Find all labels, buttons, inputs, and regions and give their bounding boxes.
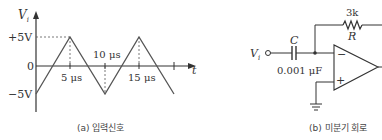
input-terminal-icon xyxy=(266,51,271,56)
differentiator-circuit: Vi C 0.001 μF 3k R − + (b) 미분기 회로 xyxy=(250,7,382,133)
opamp-inverting-sign: − xyxy=(337,48,346,61)
resistor-label: R xyxy=(347,30,356,43)
capacitor-value: 0.001 μF xyxy=(277,65,322,76)
x-axis-label: t xyxy=(192,64,197,77)
resistor-icon xyxy=(343,21,362,29)
input-signal-graph: Vi +5V 0 −5V 5 μs 10 μs 15 μs t (a) 입력신호 xyxy=(8,8,197,133)
x-tick-label-15us: 15 μs xyxy=(128,72,156,83)
ground-icon xyxy=(310,104,322,110)
y-tick-label-plus5: +5V xyxy=(8,31,33,44)
caption-b: (b) 미분기 회로 xyxy=(309,123,367,133)
resistor-value: 3k xyxy=(346,7,359,18)
opamp-noninverting-sign: + xyxy=(336,74,345,87)
y-tick-label-zero: 0 xyxy=(27,60,34,73)
x-tick-label-5us: 5 μs xyxy=(61,72,82,83)
y-axis-label: Vi xyxy=(18,8,29,24)
x-tick-label-10us: 10 μs xyxy=(93,49,121,60)
input-label: Vi xyxy=(250,47,260,62)
y-axis-arrow-icon xyxy=(33,11,39,19)
y-tick-label-minus5: −5V xyxy=(8,88,33,101)
caption-a: (a) 입력신호 xyxy=(77,122,124,133)
capacitor-label: C xyxy=(290,34,299,47)
